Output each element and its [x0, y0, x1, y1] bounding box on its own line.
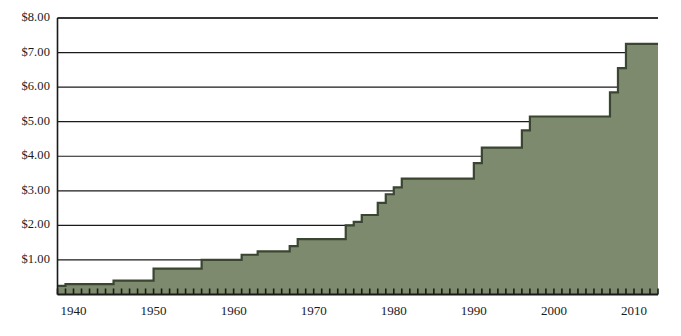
y-axis-tick-label: $2.00 [2, 217, 50, 232]
y-axis-tick-label: $8.00 [2, 10, 50, 25]
x-axis-tick-label: 1960 [206, 303, 262, 319]
area-fill-path [58, 44, 659, 295]
x-axis-tick-label: 2010 [606, 303, 662, 319]
x-axis-tick-label: 1990 [446, 303, 502, 319]
x-axis-tick-label: 2000 [526, 303, 582, 319]
y-axis-tick-label: $1.00 [2, 252, 50, 267]
x-axis-tick-label: 1950 [126, 303, 182, 319]
y-axis-tick-label: $4.00 [2, 148, 50, 163]
y-axis-tick-label: $5.00 [2, 114, 50, 129]
y-axis-tick-label: $6.00 [2, 79, 50, 94]
y-axis-tick-label: $7.00 [2, 45, 50, 60]
x-axis-tick-label: 1940 [46, 303, 102, 319]
x-axis-tick-label: 1970 [286, 303, 342, 319]
minimum-wage-area-chart: $1.00$2.00$3.00$4.00$5.00$6.00$7.00$8.00… [0, 0, 681, 336]
chart-plot-area [0, 0, 681, 336]
y-axis-tick-label: $3.00 [2, 183, 50, 198]
x-axis-tick-label: 1980 [366, 303, 422, 319]
